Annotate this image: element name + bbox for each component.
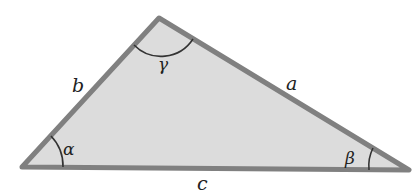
side-label-c: c xyxy=(197,172,208,194)
angle-label-gamma: γ xyxy=(158,54,169,74)
side-label-b: b xyxy=(72,74,84,96)
side-label-a: a xyxy=(286,72,297,94)
angle-label-alpha: α xyxy=(63,139,75,159)
triangle-diagram: b a c γ α β xyxy=(0,0,419,195)
angle-label-beta: β xyxy=(344,148,355,168)
